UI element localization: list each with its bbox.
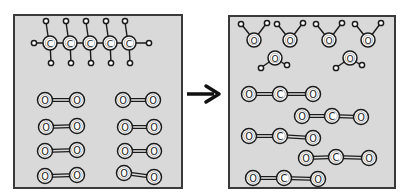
oxygen-atom: O [295,109,310,124]
hydrogen-atom [108,60,113,65]
svg-text:O: O [245,131,253,142]
oxygen-molecule: OO [118,120,162,135]
water-molecule: O [274,20,305,47]
carbon-atom: C [122,36,136,50]
svg-text:O: O [150,122,158,133]
oxygen-atom: O [361,33,375,47]
svg-text:O: O [73,170,81,181]
oxygen-atom: O [38,144,53,159]
svg-text:O: O [298,111,306,122]
oxygen-atom: O [147,170,162,185]
svg-text:C: C [281,173,288,184]
svg-text:O: O [365,153,373,164]
oxygen-molecule: OO [38,143,85,159]
oxygen-atom: O [70,93,85,108]
oxygen-atom: O [38,93,53,108]
carbon-atom: C [103,36,117,50]
carbon-atom: C [277,171,292,186]
oxygen-atom: O [147,144,162,159]
svg-text:O: O [245,89,253,100]
water-molecule: O [352,20,383,47]
carbon-atom: C [325,109,340,124]
svg-text:C: C [126,39,132,49]
oxygen-atom: O [299,151,314,166]
oxygen-molecule: OO [117,166,162,185]
oxygen-atom: O [39,120,54,135]
oxygen-atom: O [247,33,261,47]
oxygen-atom: O [246,171,261,186]
svg-text:O: O [309,89,317,100]
hydrogen-atom [352,21,357,26]
svg-text:O: O [41,171,49,182]
svg-text:O: O [73,121,81,132]
hydrogen-atom [88,60,93,65]
carbon-dioxide-molecule: OCO [299,150,377,166]
oxygen-atom: O [70,119,85,134]
carbon-atom: C [83,36,97,50]
svg-text:C: C [107,39,113,49]
oxygen-atom: O [118,144,133,159]
svg-text:O: O [150,172,158,183]
svg-text:O: O [271,54,278,64]
water-molecule: O [258,51,289,71]
svg-text:C: C [47,39,53,49]
hydrogen-atom [264,20,269,25]
hydrogen-atom [339,20,344,25]
svg-text:O: O [249,173,257,184]
svg-text:O: O [121,122,129,133]
oxygen-atom: O [70,168,85,183]
oxygen-atom: O [322,33,336,47]
hydrogen-atom [83,18,88,23]
svg-text:O: O [325,36,332,46]
svg-text:O: O [309,133,317,144]
svg-text:O: O [73,145,81,156]
hydrogen-atom [274,21,279,26]
water-molecule: O [333,51,364,71]
oxygen-atom: O [354,110,369,125]
oxygen-molecule: OO [38,168,85,184]
hydrogen-atom [48,60,53,65]
hydrogen-atom [127,60,132,65]
oxygen-molecule: OO [38,93,85,108]
hydrogen-atom [68,60,73,65]
hydrogen-atom [122,18,127,23]
oxygen-atom: O [242,87,257,102]
svg-text:O: O [73,95,81,106]
oxygen-atom: O [118,120,133,135]
hydrogen-atom [43,18,48,23]
svg-text:O: O [357,112,365,123]
hydrogen-atom [300,20,305,25]
carbon-dioxide-molecule: OCO [295,109,369,125]
svg-text:O: O [364,36,371,46]
water-molecule: O [313,20,344,47]
oxygen-atom: O [283,33,297,47]
svg-text:C: C [67,39,73,49]
oxygen-atom: O [146,93,161,108]
oxygen-atom: O [362,151,377,166]
oxygen-atom: O [343,51,357,65]
svg-text:O: O [119,95,127,106]
pentane-molecule: CCCCC [31,18,151,65]
carbon-dioxide-molecule: OCO [242,129,321,146]
oxygen-atom: O [70,143,85,158]
carbon-atom: C [43,36,57,50]
svg-text:O: O [302,153,310,164]
oxygen-atom: O [311,172,326,187]
oxygen-atom: O [117,166,132,181]
carbon-atom: C [273,129,288,144]
hydrogen-atom [378,20,383,25]
oxygen-atom: O [38,169,53,184]
oxygen-atom: O [242,129,257,144]
hydrogen-atom [238,21,243,26]
svg-text:O: O [41,146,49,157]
carbon-atom: C [329,150,344,165]
hydrogen-atom [258,65,263,70]
hydrogen-atom [313,21,318,26]
reaction-arrow-icon [187,86,219,102]
hydrogen-atom [146,40,151,45]
oxygen-molecule: OO [39,119,85,135]
carbon-dioxide-molecule: OCO [242,87,321,102]
svg-text:O: O [121,146,129,157]
oxygen-molecule: OO [118,144,162,159]
reaction-diagram: CCCCCOOOOOOOOOOOOOOOOOOOOOOOCOOCOOCOOCOO… [0,0,408,196]
